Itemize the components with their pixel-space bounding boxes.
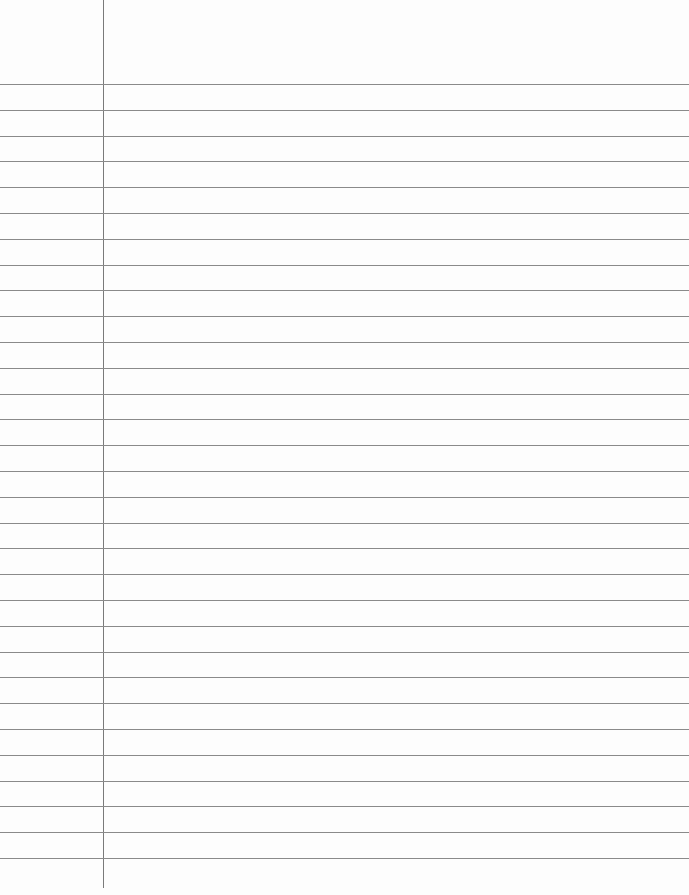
ruled-line bbox=[0, 729, 689, 730]
ruled-line bbox=[0, 574, 689, 575]
ruled-line bbox=[0, 497, 689, 498]
ruled-line bbox=[0, 394, 689, 395]
ruled-line bbox=[0, 187, 689, 188]
ruled-line bbox=[0, 316, 689, 317]
ruled-line bbox=[0, 548, 689, 549]
ruled-line bbox=[0, 832, 689, 833]
ruled-line bbox=[0, 677, 689, 678]
ruled-line bbox=[0, 600, 689, 601]
ruled-line bbox=[0, 110, 689, 111]
ruled-line bbox=[0, 806, 689, 807]
ruled-line bbox=[0, 755, 689, 756]
ruled-line bbox=[0, 368, 689, 369]
lined-paper-sheet bbox=[0, 0, 689, 895]
ruled-line bbox=[0, 781, 689, 782]
ruled-line bbox=[0, 523, 689, 524]
ruled-line bbox=[0, 652, 689, 653]
ruled-line bbox=[0, 265, 689, 266]
ruled-line bbox=[0, 84, 689, 85]
ruled-line bbox=[0, 342, 689, 343]
ruled-line bbox=[0, 161, 689, 162]
ruled-line bbox=[0, 858, 689, 859]
ruled-line bbox=[0, 213, 689, 214]
ruled-line bbox=[0, 290, 689, 291]
ruled-line bbox=[0, 136, 689, 137]
ruled-line bbox=[0, 239, 689, 240]
ruled-line bbox=[0, 471, 689, 472]
ruled-line bbox=[0, 703, 689, 704]
ruled-line bbox=[0, 419, 689, 420]
ruled-line bbox=[0, 445, 689, 446]
ruled-line bbox=[0, 626, 689, 627]
